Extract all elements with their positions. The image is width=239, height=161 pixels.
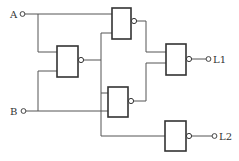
terminal-l2-icon <box>212 134 217 139</box>
wire-lower-to-l1-gate <box>134 63 166 101</box>
wire-a-to-g1 <box>38 14 57 52</box>
inverter-bubble-icon <box>131 18 136 23</box>
input-label-a: A <box>9 9 18 20</box>
terminal-b-icon <box>21 109 26 114</box>
nand-gate-left <box>57 46 84 77</box>
output-label-l2: L2 <box>219 131 232 142</box>
terminal-a-icon <box>20 12 25 17</box>
inverter-bubble-icon <box>186 56 191 61</box>
wire-b-to-g1 <box>38 71 57 111</box>
terminal-l1-icon <box>206 57 211 62</box>
inverter-bubble-icon <box>128 98 133 103</box>
inverter-bubble-icon <box>186 133 191 138</box>
output-label-l1: L1 <box>213 54 226 65</box>
wire-top-to-l1-gate <box>137 21 166 52</box>
nand-gate-lower <box>108 87 134 117</box>
inverter-bubble-icon <box>78 57 83 62</box>
nand-gate-l2 <box>165 121 192 151</box>
nand-gate-top <box>112 8 137 39</box>
logic-circuit-diagram: A B L1 L2 <box>0 0 239 161</box>
nand-gate-l1 <box>166 44 192 75</box>
input-label-b: B <box>10 106 17 117</box>
